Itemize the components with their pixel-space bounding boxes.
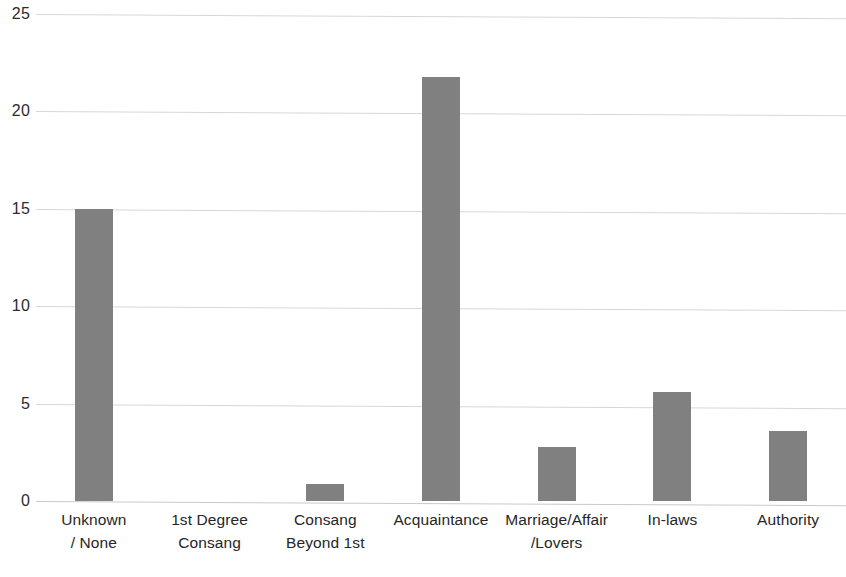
x-axis-tick-label-line: 1st Degree	[151, 508, 269, 531]
x-axis-tick-label: Acquaintance	[382, 508, 500, 531]
x-axis-tick-label: Marriage/Affair/Lovers	[498, 508, 616, 554]
bar[interactable]	[538, 447, 576, 501]
y-axis-tick-label: 20	[0, 103, 30, 119]
x-axis-tick-label: Authority	[729, 508, 846, 531]
bars-layer	[36, 14, 846, 501]
y-axis-tick-label: 10	[0, 298, 30, 314]
x-axis-tick-label: ConsangBeyond 1st	[266, 508, 384, 554]
x-axis-tick-label-line: Beyond 1st	[266, 531, 384, 554]
plot-area	[36, 14, 846, 501]
x-axis-tick-label-line: Consang	[151, 531, 269, 554]
y-axis-tick-label: 5	[0, 396, 30, 412]
y-axis-tick-label: 15	[0, 201, 30, 217]
x-axis-tick-label-line: In-laws	[613, 508, 731, 531]
bar[interactable]	[306, 484, 344, 501]
x-axis-tick-label-line: Marriage/Affair	[498, 508, 616, 531]
x-axis-tick-label: 1st DegreeConsang	[151, 508, 269, 554]
bar[interactable]	[422, 77, 460, 501]
bar[interactable]	[75, 209, 113, 501]
y-axis-tick-label: 0	[0, 493, 30, 509]
x-axis-tick-label-line: Acquaintance	[382, 508, 500, 531]
x-axis-tick-label-line: Consang	[266, 508, 384, 531]
bar[interactable]	[769, 431, 807, 501]
x-axis-tick-label-line: / None	[35, 531, 153, 554]
x-axis-tick-label-line: Unknown	[35, 508, 153, 531]
x-axis-tick-label-line: /Lovers	[498, 531, 616, 554]
x-axis-tick-label: Unknown/ None	[35, 508, 153, 554]
x-axis-category-labels: Unknown/ None1st DegreeConsangConsangBey…	[36, 508, 846, 574]
bar[interactable]	[653, 392, 691, 501]
x-axis-tick-label-line: Authority	[729, 508, 846, 531]
bar-chart: 0510152025 Unknown/ None1st DegreeConsan…	[0, 0, 846, 577]
gridline-0	[36, 501, 846, 506]
y-axis-tick-label: 25	[0, 6, 30, 22]
x-axis-tick-label: In-laws	[613, 508, 731, 531]
